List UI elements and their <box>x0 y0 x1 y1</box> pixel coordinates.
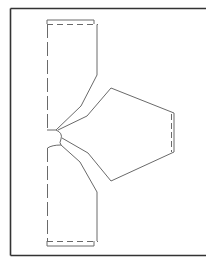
top-panel-piece <box>47 20 98 130</box>
sleeve-piece <box>58 88 174 181</box>
pattern-diagram <box>0 0 206 262</box>
bottom-panel-piece <box>47 145 98 246</box>
neck-curve <box>56 130 61 145</box>
frame-border <box>11 9 207 256</box>
